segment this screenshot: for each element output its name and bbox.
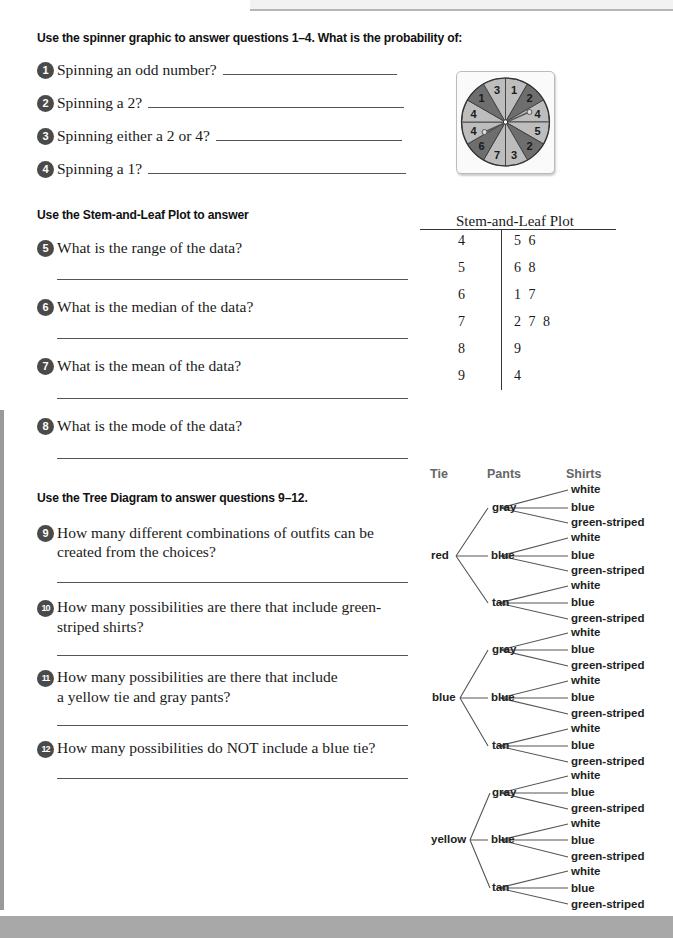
answer-line[interactable] (223, 73, 397, 75)
question-6: 6What is the median of the data? (37, 297, 253, 316)
shirt-white: white (571, 674, 600, 686)
leaf-values: 9 (514, 341, 521, 357)
answer-line-7[interactable] (57, 398, 408, 399)
question-number-badge: 1 (37, 62, 54, 79)
question-text: What is the mean of the data? (57, 357, 241, 374)
question-5: 5What is the range of the data? (37, 238, 242, 257)
stem-value: 7 (458, 314, 465, 330)
question-11: 11How many possibilities are there that … (37, 667, 338, 706)
answer-line-11[interactable] (57, 725, 408, 726)
tie-blue: blue (432, 691, 456, 703)
pants-gray: gray (492, 643, 516, 655)
question-text: How many possibilities are there that in… (57, 668, 338, 685)
leaf-values: 4 (514, 368, 521, 384)
shirt-blue: blue (571, 882, 595, 894)
question-text-continued: created from the choices? (37, 543, 216, 560)
svg-text:7: 7 (494, 149, 500, 161)
shirt-green-striped: green-striped (571, 659, 645, 671)
stem-value: 6 (458, 287, 465, 303)
question-text: How many different combinations of outfi… (57, 524, 374, 541)
spinner-wheel-icon: 1 2 4 5 2 3 7 6 4 4 1 3 (457, 72, 554, 173)
question-number-badge: 12 (37, 741, 54, 758)
pants-blue: blue (491, 549, 515, 561)
question-text: What is the range of the data? (57, 239, 242, 256)
svg-text:2: 2 (526, 92, 532, 104)
question-text: How many possibilities do NOT include a … (57, 739, 375, 756)
shirt-white: white (571, 722, 600, 734)
shirt-white: white (571, 865, 600, 877)
stem-leaf-divider (501, 230, 502, 390)
stem-leaf-section-heading: Use the Stem-and-Leaf Plot to answer (37, 207, 249, 222)
shirt-green-striped: green-striped (571, 564, 645, 576)
shirt-green-striped: green-striped (571, 755, 645, 767)
answer-line-8[interactable] (57, 458, 408, 459)
question-number-badge: 5 (37, 240, 54, 257)
tree-section-heading: Use the Tree Diagram to answer questions… (37, 490, 308, 505)
answer-line-12[interactable] (57, 778, 408, 779)
shirt-white: white (571, 626, 600, 638)
answer-line-6[interactable] (57, 338, 408, 339)
shirt-blue: blue (571, 549, 595, 561)
leaf-values: 2 7 8 (514, 314, 550, 330)
shirt-white: white (571, 817, 600, 829)
question-number-badge: 10 (37, 600, 54, 617)
shirt-green-striped: green-striped (571, 802, 645, 814)
shirt-green-striped: green-striped (571, 516, 645, 528)
question-9: 9How many different combinations of outf… (37, 523, 374, 561)
answer-line[interactable] (148, 106, 404, 108)
question-number-badge: 3 (37, 128, 54, 145)
svg-text:1: 1 (478, 92, 484, 104)
question-text: Spinning a 2? (57, 94, 142, 111)
question-number-badge: 9 (37, 525, 54, 542)
pants-blue: blue (491, 833, 515, 845)
answer-line[interactable] (216, 139, 402, 141)
question-text: How many possibilities are there that in… (57, 598, 381, 615)
shirt-blue: blue (571, 691, 595, 703)
tree-header-pants: Pants (487, 467, 521, 481)
shirt-blue: blue (571, 501, 595, 513)
question-3: 3Spinning either a 2 or 4? (37, 126, 402, 145)
pants-blue: blue (491, 691, 515, 703)
shirt-white: white (571, 531, 600, 543)
shirt-white: white (571, 769, 600, 781)
question-text: Spinning a 1? (57, 160, 142, 177)
shirt-green-striped: green-striped (571, 612, 645, 624)
shirt-blue: blue (571, 786, 595, 798)
svg-text:4: 4 (534, 108, 541, 120)
tree-header-shirts: Shirts (566, 467, 601, 481)
spinner-graphic: 1 2 4 5 2 3 7 6 4 4 1 3 (456, 71, 555, 174)
answer-line-10[interactable] (57, 655, 408, 656)
question-8: 8What is the mode of the data? (37, 416, 242, 435)
question-text: What is the mode of the data? (57, 417, 242, 434)
stem-leaf-header-rule (420, 229, 616, 230)
question-text-continued: striped shirts? (37, 618, 144, 635)
svg-text:6: 6 (478, 140, 484, 152)
page-left-edge (0, 410, 4, 910)
question-number-badge: 6 (37, 299, 54, 316)
answer-line[interactable] (148, 172, 406, 174)
answer-line-5[interactable] (57, 279, 408, 280)
question-2: 2Spinning a 2? (37, 93, 404, 112)
shirt-white: white (571, 483, 600, 495)
stem-value: 9 (458, 368, 465, 384)
question-number-badge: 8 (37, 418, 54, 435)
leaf-values: 1 7 (514, 287, 536, 303)
page-top-band (250, 0, 673, 11)
tree-header-tie: Tie (430, 467, 448, 481)
pants-tan: tan (492, 739, 509, 751)
stem-value: 5 (458, 260, 465, 276)
question-12: 12How many possibilities do NOT include … (37, 738, 375, 758)
stem-leaf-plot-title: Stem-and-Leaf Plot (456, 213, 574, 230)
answer-line-9[interactable] (57, 582, 408, 583)
leaf-values: 5 6 (514, 233, 536, 249)
svg-text:1: 1 (511, 84, 517, 96)
shirt-green-striped: green-striped (571, 898, 645, 910)
question-number-badge: 7 (37, 358, 54, 375)
stem-value: 4 (458, 233, 465, 249)
question-1: 1Spinning an odd number? (37, 60, 397, 79)
pants-tan: tan (492, 881, 509, 893)
pants-tan: tan (492, 596, 509, 608)
question-text: Spinning an odd number? (57, 61, 217, 78)
svg-text:4: 4 (470, 108, 477, 120)
question-text-continued: a yellow tie and gray pants? (37, 688, 230, 705)
